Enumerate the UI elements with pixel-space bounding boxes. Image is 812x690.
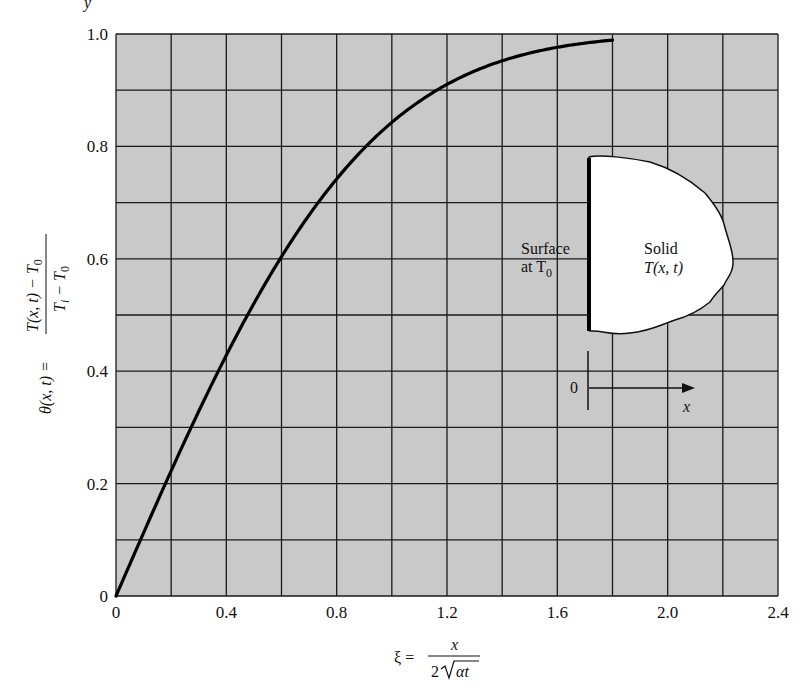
data-point bbox=[446, 84, 448, 86]
x-tick-label: 0 bbox=[112, 603, 121, 622]
y-axis-label: θ(x, t) = T(x, t) − T0 Ti − T0 bbox=[24, 234, 72, 414]
data-point bbox=[115, 595, 117, 597]
solid-label-line1: Solid bbox=[644, 240, 678, 257]
data-point bbox=[308, 214, 310, 216]
data-point bbox=[363, 147, 365, 149]
x-axis-label-numerator: x bbox=[450, 636, 458, 653]
y-tick-label: 1.0 bbox=[87, 25, 108, 44]
x-axis-label-lhs: ξ = bbox=[394, 649, 414, 666]
data-point bbox=[391, 121, 393, 123]
y-tick-label: 0.8 bbox=[87, 137, 108, 156]
data-point bbox=[253, 303, 255, 305]
data-point bbox=[336, 178, 338, 180]
solid-label-line2: T(x, t) bbox=[644, 259, 683, 277]
data-point bbox=[474, 70, 476, 72]
inset-origin-label: 0 bbox=[570, 379, 578, 396]
data-point bbox=[584, 42, 586, 44]
x-axis-label-denominator-two: 2 bbox=[431, 663, 439, 680]
y-axis-label-denominator: Ti − T0 bbox=[51, 266, 72, 312]
data-point bbox=[170, 470, 172, 472]
inset-axis-label: x bbox=[682, 398, 690, 415]
data-point bbox=[529, 52, 531, 54]
surface-label-line1: Surface bbox=[521, 240, 570, 257]
data-point bbox=[143, 532, 145, 534]
y-axis-label-lhs: θ(x, t) = bbox=[37, 361, 55, 414]
x-tick-label: 1.6 bbox=[547, 603, 568, 622]
data-point bbox=[419, 101, 421, 103]
y-tick-label: 0.2 bbox=[87, 475, 108, 494]
x-tick-label: 1.2 bbox=[436, 603, 457, 622]
y-tick-label: 0 bbox=[100, 587, 109, 606]
data-point bbox=[226, 355, 228, 357]
x-tick-label: 2.0 bbox=[657, 603, 678, 622]
data-point bbox=[501, 60, 503, 62]
x-tick-label: 2.4 bbox=[767, 603, 789, 622]
data-point bbox=[557, 47, 559, 49]
x-tick-label: 0.4 bbox=[216, 603, 238, 622]
y-tick-label: 0.4 bbox=[87, 362, 109, 381]
x-tick-label: 0.8 bbox=[326, 603, 347, 622]
data-point bbox=[198, 410, 200, 412]
data-point bbox=[281, 256, 283, 258]
x-axis-label-radicand: αt bbox=[456, 663, 469, 680]
y-axis-label-numerator: T(x, t) − T0 bbox=[24, 259, 45, 332]
page-fragment-text: y bbox=[82, 0, 92, 12]
y-tick-label: 0.6 bbox=[87, 250, 108, 269]
chart: y Surface at T0 Solid T(x, t) 0 x 00.40.… bbox=[0, 0, 812, 690]
x-axis-label: ξ = x 2 αt bbox=[394, 636, 480, 680]
data-point bbox=[612, 39, 614, 41]
